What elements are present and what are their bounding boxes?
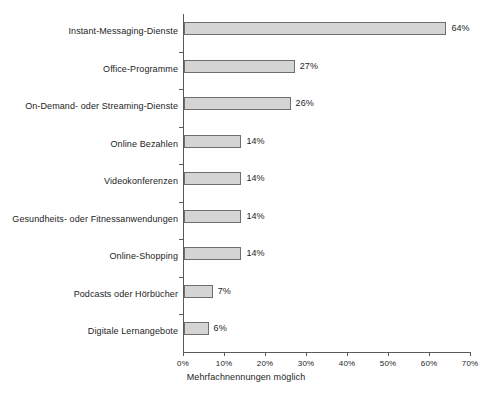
x-axis-tick (265, 352, 266, 356)
bar (184, 135, 241, 148)
x-axis-tick-label: 70% (462, 359, 478, 368)
x-axis-tick (470, 352, 471, 356)
bar (184, 60, 295, 73)
y-axis-tick (179, 127, 183, 128)
x-axis-tick-label: 10% (216, 359, 232, 368)
bar (184, 285, 213, 298)
x-axis-tick-label: 0% (177, 359, 189, 368)
bar-value-label: 14% (246, 248, 264, 258)
y-axis-tick (179, 277, 183, 278)
y-axis-tick (179, 314, 183, 315)
plot-area: 64%27%26%14%14%14%14%7%6% 0%10%20%30%40%… (183, 14, 470, 352)
category-label: Online Bezahlen (110, 139, 178, 149)
category-label: On-Demand- oder Streaming-Dienste (25, 101, 178, 111)
bar (184, 22, 446, 35)
bar (184, 210, 241, 223)
x-axis-tick (429, 352, 430, 356)
y-axis-tick (179, 89, 183, 90)
bar-value-label: 14% (246, 136, 264, 146)
bar-value-label: 6% (214, 323, 227, 333)
bar (184, 247, 241, 260)
bar-value-label: 7% (218, 286, 231, 296)
category-label: Instant-Messaging-Dienste (68, 26, 178, 36)
axis-caption: Mehrfachnennungen möglich (0, 372, 492, 382)
x-axis-tick-label: 60% (421, 359, 437, 368)
category-label: Gesundheits- oder Fitnessanwendungen (12, 214, 178, 224)
x-axis-tick (306, 352, 307, 356)
category-label: Digitale Lernangebote (88, 326, 178, 336)
category-label: Videokonferenzen (104, 176, 178, 186)
bar-value-label: 64% (451, 23, 469, 33)
category-axis-labels: Instant-Messaging-DiensteOffice-Programm… (0, 14, 178, 352)
x-axis-tick (347, 352, 348, 356)
x-axis-tick (388, 352, 389, 356)
bar-chart: Instant-Messaging-DiensteOffice-Programm… (0, 0, 492, 399)
x-axis-tick-label: 50% (380, 359, 396, 368)
x-axis-tick (224, 352, 225, 356)
x-axis-tick-label: 30% (298, 359, 314, 368)
bar-value-label: 14% (246, 211, 264, 221)
y-axis-tick (179, 202, 183, 203)
bar-value-label: 26% (296, 98, 314, 108)
bar (184, 322, 209, 335)
category-label: Podcasts oder Hörbücher (74, 289, 178, 299)
x-axis-tick (183, 352, 184, 356)
y-axis-tick (179, 239, 183, 240)
bar (184, 97, 291, 110)
bar-value-label: 14% (246, 173, 264, 183)
x-axis-tick-label: 40% (339, 359, 355, 368)
x-axis-line (183, 352, 470, 353)
category-label: Online-Shopping (109, 251, 178, 261)
x-axis-tick-label: 20% (257, 359, 273, 368)
bar (184, 172, 241, 185)
category-label: Office-Programme (103, 64, 178, 74)
y-axis-tick (179, 164, 183, 165)
y-axis-tick (179, 52, 183, 53)
bar-value-label: 27% (300, 61, 318, 71)
